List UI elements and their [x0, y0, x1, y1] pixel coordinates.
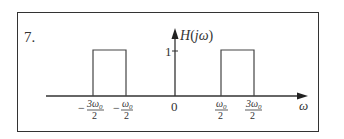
h-axis-arrow-icon — [172, 28, 179, 39]
amplitude-label: 1 — [165, 44, 172, 59]
tick-label-neg-3w0-over-2: − 3ω0 2 — [78, 98, 104, 121]
svg-text:2: 2 — [124, 110, 129, 121]
svg-text:2: 2 — [218, 110, 223, 121]
tick-label-neg-w0-over-2: − ω0 2 — [113, 98, 133, 121]
svg-text:2: 2 — [250, 110, 255, 121]
x-axis-label: ω — [299, 98, 308, 113]
svg-text:2: 2 — [92, 110, 97, 121]
origin-label: 0 — [171, 99, 178, 114]
pulse-left — [93, 50, 126, 96]
frequency-response-diagram: 7. 1 H(jω) − 3ω0 2 − ω0 2 0 ω0 2 3ω0 2 ω — [0, 0, 344, 139]
svg-text:−: − — [113, 101, 120, 115]
svg-text:−: − — [78, 101, 85, 115]
pulse-right — [221, 50, 254, 96]
tick-label-3w0-over-2: 3ω0 2 — [245, 98, 262, 121]
problem-number: 7. — [24, 29, 35, 45]
tick-label-w0-over-2: ω0 2 — [215, 98, 228, 121]
y-axis-label: H(jω) — [179, 28, 214, 44]
